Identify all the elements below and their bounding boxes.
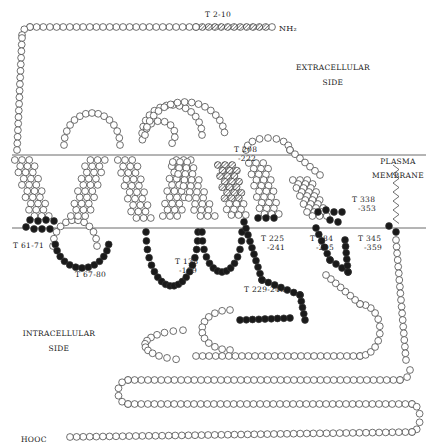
peptide-label-t138-159: T 138 -159 xyxy=(175,258,198,275)
peptide-label-t338-353: T 338 -353 xyxy=(352,196,376,213)
peptide-label-t208-222: T 208 -222 xyxy=(234,146,257,163)
region-label-line1: PLASMA xyxy=(368,158,428,167)
peptide-label-line2: -241 xyxy=(261,244,285,253)
peptide-label-t2-10: T 2-10 xyxy=(205,11,231,20)
peptide-label-line2: -353 xyxy=(352,205,376,214)
extracellular-side-label: EXTRACELLULAR SIDE xyxy=(293,64,373,87)
peptide-label-line2: -159 xyxy=(175,267,198,276)
region-label-line2: SIDE xyxy=(293,79,373,88)
intracellular-side-label: INTRACELLULAR SIDE xyxy=(14,330,104,353)
peptide-label-t61-71: T 61-71 xyxy=(13,242,44,251)
region-label-line1: EXTRACELLULAR xyxy=(293,64,373,73)
peptide-label-text: T 2-10 xyxy=(205,10,231,19)
peptide-label-t345-359: T 345 -359 xyxy=(358,235,382,252)
c-terminus-label: HOOC xyxy=(21,436,47,445)
region-label-line2: SIDE xyxy=(14,345,104,354)
peptide-label-t284-295: T 284 -295 xyxy=(310,235,334,252)
peptide-label-t225-241: T 225 -241 xyxy=(261,235,285,252)
region-label-line2: MEMBRANE xyxy=(368,172,428,181)
peptide-label-line2: -295 xyxy=(310,244,334,253)
peptide-label-t229-248: T 229-248 xyxy=(244,286,285,295)
plasma-membrane-label: PLASMA MEMBRANE xyxy=(368,158,428,180)
peptide-label-t67-80: T 67-80 xyxy=(75,271,106,280)
peptide-label-line2: -222 xyxy=(234,155,257,164)
n-terminus-label: NH₂ xyxy=(279,24,297,33)
region-label-line1: INTRACELLULAR xyxy=(14,330,104,339)
peptide-label-line2: -359 xyxy=(358,244,382,253)
